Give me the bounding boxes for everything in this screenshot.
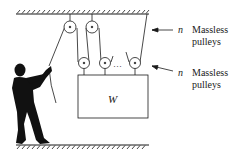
floor	[16, 145, 149, 149]
label-arrows	[152, 28, 173, 71]
fixed-pulleys	[64, 21, 98, 33]
ceiling	[16, 10, 149, 14]
label-fixed-line1: Massless	[192, 24, 228, 35]
label-movable-line1: Massless	[192, 67, 228, 78]
weight-label: W	[108, 94, 117, 105]
movable-pulleys	[79, 58, 141, 76]
man-silhouette	[12, 64, 52, 145]
n-symbol-movable: n	[178, 67, 183, 78]
label-movable-line2: pulleys	[192, 79, 221, 90]
ellipsis: …	[113, 59, 122, 70]
n-symbol-fixed: n	[178, 24, 183, 35]
label-fixed-line2: pulleys	[192, 36, 221, 47]
